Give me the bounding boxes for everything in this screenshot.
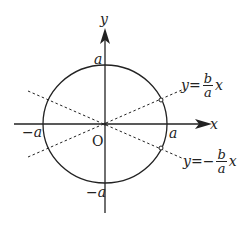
origin-label: O — [92, 134, 103, 148]
lhs: y= — [181, 77, 201, 93]
var: x — [229, 153, 237, 169]
lhs: y= — [183, 153, 203, 169]
x-axis-label: x — [210, 117, 218, 131]
asymptote-label-negative: y=−bax — [183, 148, 237, 175]
origin-dot — [103, 122, 106, 125]
denominator: a — [204, 86, 212, 99]
asymptote-label-positive: y=bax — [181, 72, 223, 99]
diagram: y x O a −a a −a y=bax y=−bax — [0, 0, 250, 225]
denominator: a — [218, 162, 226, 175]
fraction: ba — [203, 72, 213, 99]
numerator: b — [216, 148, 226, 162]
diagram-canvas — [0, 0, 250, 225]
fraction: ba — [216, 148, 226, 175]
intersection-point-lower — [159, 146, 163, 150]
sign: − — [203, 153, 215, 169]
numerator: b — [203, 72, 213, 86]
intersection-point-upper — [159, 98, 163, 102]
tick-y-pos: a — [94, 52, 102, 66]
tick-x-neg: −a — [22, 125, 42, 139]
y-axis-label: y — [100, 12, 108, 26]
var: x — [215, 77, 223, 93]
tick-y-neg: −a — [86, 185, 106, 199]
tick-x-pos: a — [169, 126, 177, 140]
